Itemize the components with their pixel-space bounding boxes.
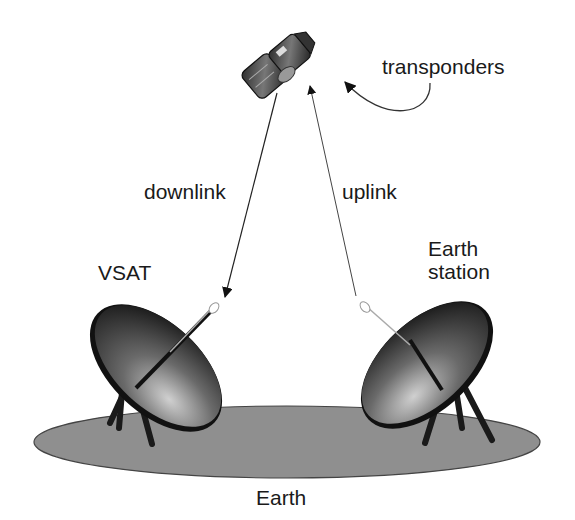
transponders-label: transponders xyxy=(382,56,505,79)
transponders-pointer-arrow xyxy=(345,82,430,111)
uplink-label: uplink xyxy=(342,181,397,204)
satellite-diagram: transponders downlink uplink VSAT Earth … xyxy=(0,0,575,520)
downlink-arrow xyxy=(225,93,277,297)
earth-station-label-line1: Earth xyxy=(428,238,478,261)
earth-label: Earth xyxy=(256,487,306,510)
vsat-label: VSAT xyxy=(98,262,151,285)
earth-station-label-line2: station xyxy=(428,261,490,284)
satellite-icon xyxy=(240,24,323,102)
downlink-label: downlink xyxy=(144,181,226,204)
